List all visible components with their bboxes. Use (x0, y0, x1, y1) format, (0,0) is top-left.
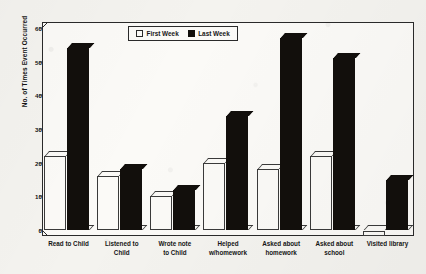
x-axis-label: Helpedw/homework (201, 240, 254, 257)
x-axis-label-line: Wrote note (148, 240, 201, 249)
bar-last-week (226, 116, 248, 230)
bar-group (95, 22, 148, 236)
bar-base-first-week (363, 231, 385, 236)
x-axis-label-line: Read to Child (42, 240, 95, 249)
legend-swatch-open-square-icon (136, 30, 143, 37)
y-axis-title: No. of Times Event Occurred (21, 0, 28, 142)
bar-group (42, 22, 95, 236)
legend-item-last-week: Last Week (188, 30, 230, 37)
bars-layer (42, 22, 414, 236)
bar-last-week (280, 38, 302, 230)
bar-last-week (173, 190, 195, 230)
x-axis-label-line: Visited library (361, 240, 414, 249)
x-axis-label-line: Helped (201, 240, 254, 249)
x-axis-label: Listened toChild (95, 240, 148, 257)
x-axis-label-line: Listened to (95, 240, 148, 249)
bar-group (361, 22, 414, 236)
x-axis-label-line: school (308, 249, 361, 258)
chart-legend: First Week Last Week (128, 26, 238, 41)
bar-first-week (203, 163, 225, 230)
bar-last-week (67, 48, 89, 230)
x-axis-label-line: Child (95, 249, 148, 258)
bar-group (148, 22, 201, 236)
x-axis-label: Asked abouthomework (255, 240, 308, 257)
legend-item-first-week: First Week (136, 30, 179, 37)
x-axis-label: Read to Child (42, 240, 95, 249)
x-axis-label-line: to Child (148, 249, 201, 258)
bar-group (201, 22, 254, 236)
bar-group (308, 22, 361, 236)
legend-label-last-week: Last Week (198, 30, 230, 37)
x-axis-label-line: Asked about (255, 240, 308, 249)
bar-first-week (257, 169, 279, 230)
bar-last-week (120, 169, 142, 230)
legend-label-first-week: First Week (147, 30, 179, 37)
bar-first-week (150, 196, 172, 230)
bar-last-week (333, 58, 355, 230)
bar-first-week (97, 176, 119, 230)
bar-group (255, 22, 308, 236)
legend-swatch-filled-square-icon (188, 30, 195, 37)
x-axis-label-line: homework (255, 249, 308, 258)
x-axis-labels: Read to ChildListened toChildWrote notet… (42, 240, 414, 272)
bar-chart: No. of Times Event Occurred 010203040506… (0, 0, 426, 274)
x-axis-label-line: Asked about (308, 240, 361, 249)
x-axis-label: Visited library (361, 240, 414, 249)
x-axis-label: Wrote noteto Child (148, 240, 201, 257)
x-axis-label-line: w/homework (201, 249, 254, 258)
bar-first-week (310, 156, 332, 230)
bar-last-week (386, 180, 408, 231)
x-axis-label: Asked aboutschool (308, 240, 361, 257)
bar-first-week (44, 156, 66, 230)
